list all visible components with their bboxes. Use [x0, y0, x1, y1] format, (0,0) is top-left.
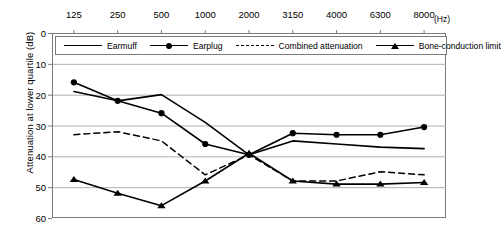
legend-label: Earplug [193, 41, 223, 51]
legend-item-combined-attenuation: Combined attenuation [236, 40, 363, 51]
x-tick-label-3150: 3150 [282, 9, 303, 20]
data-point-earplug-500 [158, 110, 164, 116]
x-tick-label-250: 250 [110, 9, 126, 20]
legend-swatch-icon [64, 40, 102, 51]
data-point-earplug-8000 [421, 124, 427, 130]
legend-item-earplug: Earplug [150, 40, 223, 51]
legend-item-earmuff: Earmuff [64, 40, 137, 51]
x-axis-unit-label: (Hz) [434, 14, 450, 24]
y-tick-label-40: 40 [20, 151, 46, 162]
legend-swatch-icon [150, 40, 188, 51]
data-point-earplug-250 [115, 98, 121, 104]
x-tick-label-1000: 1000 [195, 9, 216, 20]
y-tick-label-0: 0 [20, 28, 46, 39]
x-tick-label-6300: 6300 [370, 9, 391, 20]
data-point-earplug-1000 [202, 141, 208, 147]
data-point-earplug-4000 [333, 132, 339, 138]
legend-label: Earmuff [107, 41, 137, 51]
data-point-earplug-125 [71, 79, 77, 85]
legend-swatch-icon [236, 40, 274, 51]
y-axis-tick-labels: 0102030405060 [16, 0, 46, 230]
series-line-bone-conduction-limit [74, 153, 424, 205]
x-tick-label-2000: 2000 [238, 9, 259, 20]
x-tick-label-4000: 4000 [326, 9, 347, 20]
legend-item-bone-conduction-limit: Bone-conduction limit [376, 40, 501, 51]
x-axis-tick-labels: 125250500100020003150400063008000 [0, 9, 456, 23]
data-point-bone-conduction-limit-125 [70, 176, 78, 182]
legend-label: Bone-conduction limit [419, 41, 501, 51]
y-tick-label-20: 20 [20, 89, 46, 100]
data-point-earplug-6300 [377, 132, 383, 138]
legend-label: Combined attenuation [279, 41, 363, 51]
series-line-earmuff [74, 92, 424, 155]
chart-legend: EarmuffEarplugCombined attenuationBone-c… [55, 36, 447, 55]
series-line-earplug [74, 82, 424, 154]
x-tick-label-125: 125 [66, 9, 82, 20]
legend-swatch-icon [376, 40, 414, 51]
y-tick-label-30: 30 [20, 120, 46, 131]
x-tick-label-500: 500 [154, 9, 170, 20]
data-point-earplug-3150 [290, 130, 296, 136]
y-tick-label-50: 50 [20, 182, 46, 193]
y-tick-label-10: 10 [20, 58, 46, 69]
y-tick-label-60: 60 [20, 213, 46, 224]
x-tick-label-8000: 8000 [414, 9, 435, 20]
